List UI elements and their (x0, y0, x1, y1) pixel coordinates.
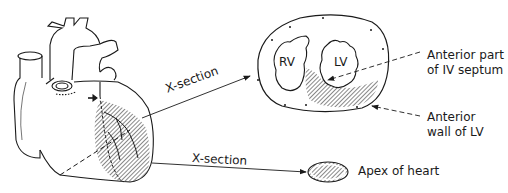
lv-label: LV (334, 55, 348, 69)
xsection-lower-label: X-section (192, 151, 248, 168)
anterior-septum-label-1: Anterior part (427, 48, 504, 62)
anterior-septum-label-2: of IV septum (427, 63, 503, 77)
anterior-wall-leader (372, 106, 420, 116)
rv-label: RV (279, 55, 295, 69)
diagram-canvas: X-section X-section RV LV Anterior part … (0, 0, 508, 193)
anterior-wall-label-1: Anterior (427, 110, 475, 124)
infarct-region-heart (95, 100, 150, 182)
apex-label: Apex of heart (358, 164, 439, 178)
anterior-wall-label-2: wall of LV (427, 125, 484, 139)
